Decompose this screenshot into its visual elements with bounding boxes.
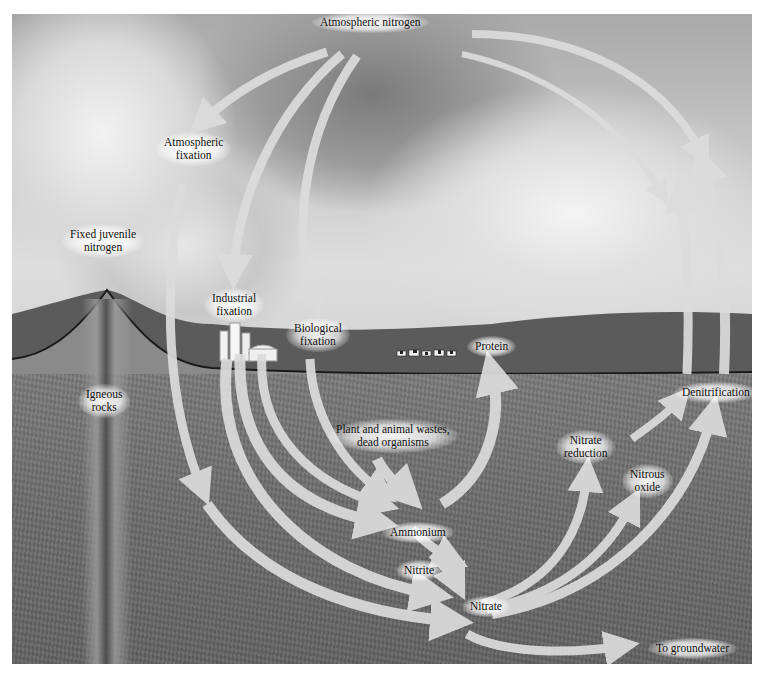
node-protein: Protein — [467, 336, 516, 357]
arrow-nitrate-to-groundwater — [467, 634, 622, 651]
arrow-top-arc-a — [472, 34, 702, 154]
node-ammonium: Ammonium — [382, 522, 454, 543]
node-industrial-fixation: Industrial fixation — [204, 288, 264, 322]
arrow-nitrous-to-denitrification — [632, 399, 680, 439]
node-fixed-juvenile-nitrogen: Fixed juvenile nitrogen — [62, 224, 144, 258]
node-plant-animal-wastes: Plant and animal wastes, dead organisms — [328, 419, 458, 453]
node-nitrous-oxide: Nitrous oxide — [622, 464, 673, 498]
node-to-groundwater: To groundwater — [648, 638, 737, 659]
arrow-denit-up-b — [702, 164, 725, 374]
cycle-arrows — [12, 14, 752, 664]
nitrogen-cycle-diagram: Atmospheric nitrogen Atmospheric fixatio… — [12, 14, 752, 664]
node-denitrification: Denitrification — [674, 382, 752, 403]
arrow-atmfix-down — [170, 184, 202, 489]
node-nitrite: Nitrite — [396, 560, 442, 581]
node-igneous-rocks: Igneous rocks — [78, 384, 130, 418]
arrow-denit-up-a — [680, 194, 688, 374]
arrow-atm-to-biological — [303, 56, 357, 299]
node-nitrate: Nitrate — [462, 596, 510, 617]
node-biological-fixation: Biological fixation — [286, 318, 350, 352]
node-nitrate-reduction: Nitrate reduction — [556, 430, 615, 464]
node-atmospheric-fixation: Atmospheric fixation — [156, 132, 231, 166]
